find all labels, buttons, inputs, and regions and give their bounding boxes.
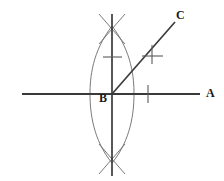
- construction-figure: A B C: [0, 0, 224, 181]
- vertex-label-c: C: [176, 9, 185, 21]
- vertex-label-b: B: [99, 92, 107, 104]
- tick-cross-on-diagonal-ray: [142, 45, 163, 64]
- construction-canvas: [0, 0, 224, 181]
- vertex-label-a: A: [206, 87, 215, 99]
- diagonal-ray-BC: [112, 22, 175, 94]
